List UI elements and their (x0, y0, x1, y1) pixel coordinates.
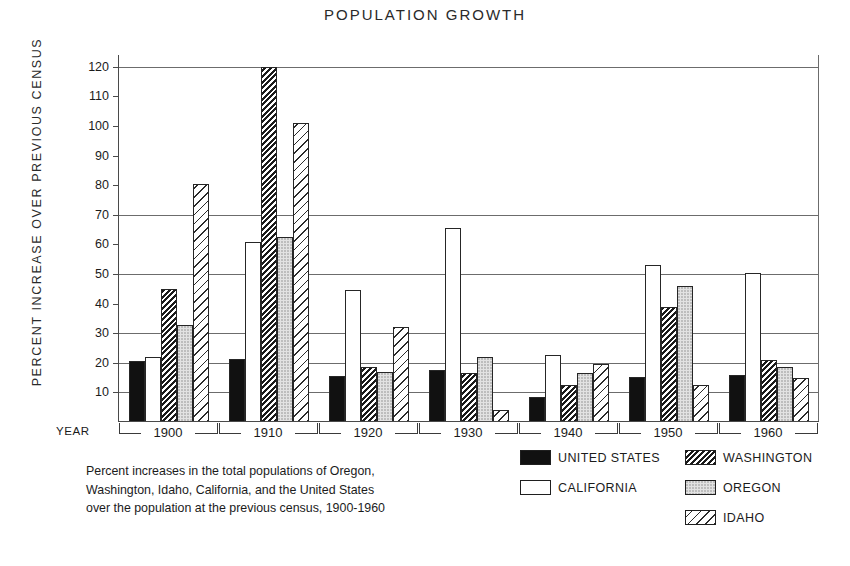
bar-group-1930 (429, 55, 510, 422)
legend-label: CALIFORNIA (558, 481, 637, 495)
x-bracket-tick-left (419, 423, 420, 434)
x-bracket-tick-left (219, 423, 220, 434)
y-tick-label-50: 50 (75, 267, 109, 281)
bar-id-1960[interactable] (793, 378, 809, 422)
y-tick-mark-110 (113, 96, 119, 97)
y-tick-label-70: 70 (75, 208, 109, 222)
bar-group-1900 (129, 55, 210, 422)
y-tick-mark-120 (113, 67, 119, 68)
legend-item-washington[interactable]: WASHINGTON (685, 450, 812, 465)
bar-or-1950[interactable] (677, 286, 693, 422)
x-category-1950: 1950 (619, 422, 718, 448)
bar-wa-1940[interactable] (561, 385, 577, 422)
x-category-1910: 1910 (219, 422, 318, 448)
legend-item-idaho[interactable]: IDAHO (685, 510, 765, 525)
bar-us-1910[interactable] (229, 359, 245, 422)
legend-item-oregon[interactable]: OREGON (685, 480, 781, 495)
legend-label: WASHINGTON (723, 451, 812, 465)
y-axis-label: PERCENT INCREASE OVER PREVIOUS CENSUS (30, 17, 44, 407)
x-axis-label: YEAR (56, 425, 90, 437)
bar-ca-1910[interactable] (245, 242, 261, 422)
y-tick-mark-60 (113, 244, 119, 245)
bar-or-1930[interactable] (477, 357, 493, 422)
y-tick-label-110: 110 (75, 89, 109, 103)
x-category-1940: 1940 (519, 422, 618, 448)
x-category-label-1910: 1910 (241, 425, 295, 440)
bar-ca-1930[interactable] (445, 228, 461, 422)
plot-inner (119, 55, 819, 422)
x-category-1930: 1930 (419, 422, 518, 448)
chart-legend: UNITED STATESWASHINGTONCALIFORNIAOREGONI… (520, 450, 845, 550)
y-tick-mark-70 (113, 215, 119, 216)
y-tick-mark-40 (113, 304, 119, 305)
x-bracket-tick-left (119, 423, 120, 434)
x-category-1900: 1900 (119, 422, 218, 448)
population-growth-figure: POPULATION GROWTH PERCENT INCREASE OVER … (0, 0, 850, 566)
bar-ca-1950[interactable] (645, 265, 661, 422)
x-bracket-tick-right (517, 423, 518, 434)
y-tick-label-80: 80 (75, 178, 109, 192)
y-tick-mark-30 (113, 333, 119, 334)
bar-id-1920[interactable] (393, 327, 409, 422)
x-category-label-1920: 1920 (341, 425, 395, 440)
bar-id-1900[interactable] (193, 184, 209, 422)
bar-wa-1960[interactable] (761, 360, 777, 422)
bar-us-1960[interactable] (729, 375, 745, 422)
legend-label: IDAHO (723, 511, 765, 525)
x-category-label-1900: 1900 (141, 425, 195, 440)
bar-wa-1920[interactable] (361, 367, 377, 422)
bar-us-1930[interactable] (429, 370, 445, 422)
bar-us-1940[interactable] (529, 397, 545, 422)
bar-wa-1900[interactable] (161, 289, 177, 422)
y-tick-label-60: 60 (75, 237, 109, 251)
caption-line-3: over the population at the previous cens… (86, 499, 476, 518)
y-tick-label-100: 100 (75, 119, 109, 133)
bar-wa-1930[interactable] (461, 373, 477, 422)
x-axis-categories: 1900191019201930194019501960 (118, 422, 818, 452)
bar-or-1960[interactable] (777, 367, 793, 422)
bar-us-1950[interactable] (629, 377, 645, 422)
stipple-swatch (685, 480, 716, 495)
bar-ca-1960[interactable] (745, 273, 761, 422)
bar-id-1950[interactable] (693, 385, 709, 422)
y-tick-label-40: 40 (75, 297, 109, 311)
y-tick-label-30: 30 (75, 326, 109, 340)
x-bracket-tick-right (217, 423, 218, 434)
bar-id-1940[interactable] (593, 364, 609, 422)
legend-item-california[interactable]: CALIFORNIA (520, 480, 637, 495)
x-category-label-1940: 1940 (541, 425, 595, 440)
x-bracket-tick-right (417, 423, 418, 434)
x-bracket-tick-right (817, 423, 818, 434)
x-bracket-tick-right (317, 423, 318, 434)
y-tick-mark-20 (113, 363, 119, 364)
x-bracket-tick-right (617, 423, 618, 434)
y-tick-mark-80 (113, 185, 119, 186)
bar-ca-1920[interactable] (345, 290, 361, 422)
legend-item-united-states[interactable]: UNITED STATES (520, 450, 660, 465)
bar-ca-1900[interactable] (145, 357, 161, 422)
bar-wa-1950[interactable] (661, 307, 677, 422)
x-category-label-1960: 1960 (741, 425, 795, 440)
plot-area (118, 55, 819, 422)
caption-line-2: Washington, Idaho, California, and the U… (86, 481, 476, 500)
bar-us-1920[interactable] (329, 376, 345, 422)
x-bracket-tick-left (719, 423, 720, 434)
bar-id-1910[interactable] (293, 123, 309, 422)
x-bracket-tick-right (717, 423, 718, 434)
bar-or-1910[interactable] (277, 237, 293, 422)
x-category-label-1950: 1950 (641, 425, 695, 440)
solid-black-swatch (520, 450, 551, 465)
bar-or-1920[interactable] (377, 372, 393, 422)
x-category-1920: 1920 (319, 422, 418, 448)
bar-wa-1910[interactable] (261, 67, 277, 422)
y-tick-mark-50 (113, 274, 119, 275)
y-tick-label-120: 120 (75, 60, 109, 74)
bar-ca-1940[interactable] (545, 355, 561, 422)
bar-group-1910 (229, 55, 310, 422)
bar-or-1900[interactable] (177, 325, 193, 422)
bar-group-1960 (729, 55, 810, 422)
bar-us-1900[interactable] (129, 361, 145, 422)
x-bracket-tick-left (319, 423, 320, 434)
x-category-label-1930: 1930 (441, 425, 495, 440)
bar-or-1940[interactable] (577, 373, 593, 422)
